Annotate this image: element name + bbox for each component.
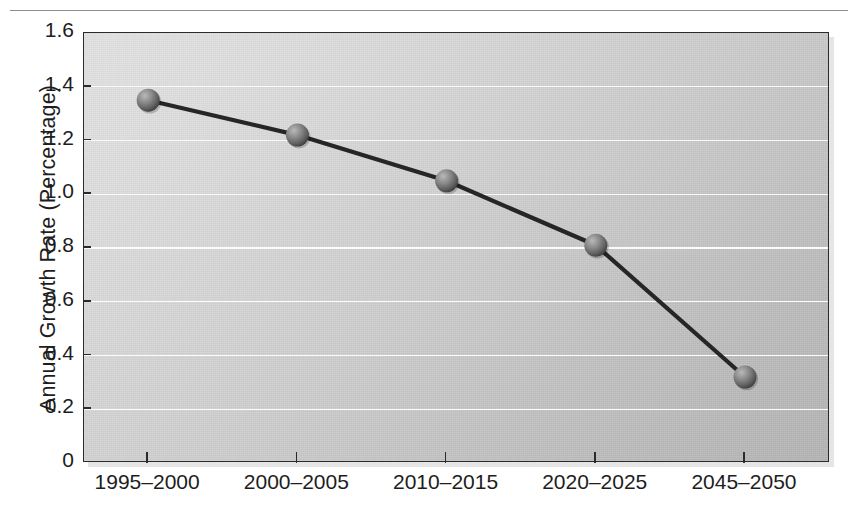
x-axis-tick-mark — [594, 452, 596, 463]
y-axis-tick-label: 1.4 — [12, 72, 74, 96]
y-axis-tick-mark — [83, 192, 91, 194]
data-point-marker — [286, 124, 309, 147]
x-axis-tick-label: 2045–2050 — [654, 470, 834, 494]
data-series-line — [84, 33, 829, 462]
x-axis-tick-mark — [445, 452, 447, 463]
x-axis-tick-mark — [743, 452, 745, 463]
y-axis-tick-label: 0.2 — [12, 394, 74, 418]
y-axis-tick-labels: 1.61.41.21.00.80.60.40.20 — [0, 0, 74, 529]
chart-figure: Annual Growth Rate (Percentage) 1.61.41.… — [0, 0, 856, 529]
y-axis-tick-label: 0.6 — [12, 287, 74, 311]
data-point-marker — [137, 89, 160, 112]
y-axis-tick-label: 1.0 — [12, 179, 74, 203]
y-axis-tick-label: 1.6 — [12, 18, 74, 42]
data-point-marker — [435, 169, 458, 192]
x-axis-tick-mark — [146, 452, 148, 463]
y-axis-tick-label: 0.4 — [12, 341, 74, 365]
x-axis-tick-mark — [296, 452, 298, 463]
y-axis-tick-mark — [83, 246, 91, 248]
data-point-marker — [734, 366, 757, 389]
y-axis-tick-label: 0 — [12, 448, 74, 472]
data-point-marker — [584, 234, 607, 257]
y-axis-tick-mark — [83, 300, 91, 302]
top-horizontal-rule — [10, 10, 848, 11]
y-axis-tick-mark — [83, 85, 91, 87]
y-axis-tick-mark — [83, 354, 91, 356]
y-axis-tick-mark — [83, 139, 91, 141]
y-axis-tick-label: 0.8 — [12, 233, 74, 257]
plot-area — [83, 32, 829, 462]
y-axis-tick-label: 1.2 — [12, 126, 74, 150]
y-axis-tick-mark — [83, 407, 91, 409]
